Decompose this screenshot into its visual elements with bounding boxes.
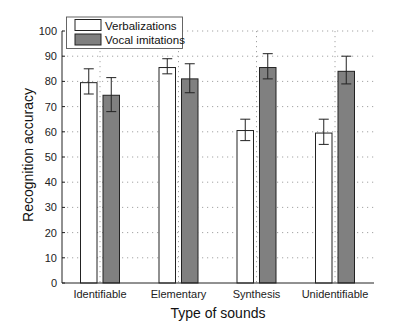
- x-tick-label: Unidentifiable: [302, 288, 369, 300]
- x-tick-label: Synthesis: [233, 288, 281, 300]
- bar-chart: 0102030405060708090100IdentifiableElemen…: [0, 0, 393, 333]
- y-tick-label: 0: [51, 277, 57, 289]
- y-tick-label: 20: [45, 227, 57, 239]
- x-axis-title: Type of sounds: [171, 305, 266, 321]
- y-tick-label: 100: [39, 25, 57, 37]
- legend-label: Vocal imitations: [105, 34, 185, 46]
- y-tick-label: 10: [45, 252, 57, 264]
- y-tick-label: 30: [45, 201, 57, 213]
- bar-verbalizations: [159, 68, 176, 283]
- y-tick-label: 80: [45, 75, 57, 87]
- legend-swatch: [75, 34, 101, 45]
- y-tick-label: 70: [45, 101, 57, 113]
- bar-vocal-imitations: [338, 71, 355, 283]
- y-axis-title: Recognition accuracy: [20, 88, 36, 222]
- y-tick-label: 90: [45, 50, 57, 62]
- y-tick-label: 50: [45, 151, 57, 163]
- legend-swatch: [75, 20, 101, 31]
- bar-verbalizations: [237, 131, 254, 283]
- legend: VerbalizationsVocal imitations: [67, 17, 186, 49]
- bar-vocal-imitations: [260, 68, 277, 283]
- x-tick-label: Identifiable: [73, 288, 126, 300]
- y-tick-label: 40: [45, 176, 57, 188]
- bar-vocal-imitations: [103, 95, 120, 283]
- legend-label: Verbalizations: [105, 20, 177, 32]
- y-tick-label: 60: [45, 126, 57, 138]
- bar-verbalizations: [81, 83, 98, 283]
- bars: [81, 54, 355, 283]
- bar-verbalizations: [316, 133, 333, 283]
- bar-vocal-imitations: [182, 79, 199, 283]
- x-tick-label: Elementary: [151, 288, 207, 300]
